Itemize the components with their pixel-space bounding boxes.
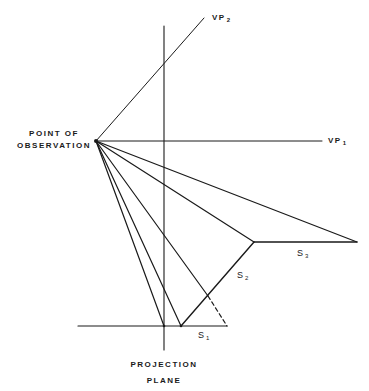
ray-3 bbox=[96, 141, 208, 296]
segment-s2 bbox=[181, 242, 254, 326]
s1-main: S bbox=[198, 330, 205, 340]
pov-line2: OBSERVATION bbox=[14, 140, 94, 152]
s3-main: S bbox=[297, 248, 304, 258]
vp2-line bbox=[96, 18, 204, 141]
s3-label: S3 bbox=[297, 249, 309, 258]
perspective-diagram: POINT OF OBSERVATION VP2 VP1 S3 S2 S1 PR… bbox=[0, 0, 369, 391]
s2-label: S2 bbox=[237, 271, 249, 280]
point-of-observation-label: POINT OF OBSERVATION bbox=[14, 128, 94, 152]
vp1-main: VP bbox=[328, 136, 342, 145]
point-of-observation-dot bbox=[94, 139, 98, 143]
s2-main: S bbox=[237, 270, 244, 280]
vp1-sub: 1 bbox=[343, 140, 348, 146]
dashed-projection bbox=[208, 296, 227, 326]
s1-label: S1 bbox=[198, 331, 210, 340]
diagram-lines bbox=[0, 0, 369, 391]
vp2-label: VP2 bbox=[212, 14, 232, 22]
vp2-main: VP bbox=[212, 13, 226, 22]
pov-line1: POINT OF bbox=[14, 128, 94, 140]
s1-sub: 1 bbox=[206, 335, 210, 341]
vp2-sub: 2 bbox=[227, 17, 232, 23]
pp-line2: PLANE bbox=[119, 373, 209, 389]
vp1-label: VP1 bbox=[328, 137, 348, 145]
ray-1 bbox=[96, 141, 164, 326]
projection-plane-label: PROJECTION PLANE bbox=[119, 357, 209, 389]
s2-sub: 2 bbox=[245, 275, 249, 281]
pp-line1: PROJECTION bbox=[119, 357, 209, 373]
s3-sub: 3 bbox=[305, 253, 309, 259]
